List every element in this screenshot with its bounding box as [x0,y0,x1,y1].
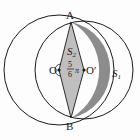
label-s1: S1 [112,67,121,81]
label-o: O [49,64,57,76]
angle-denominator: 6 [68,70,72,79]
two-circles-diagram: A B O O′ S2 S1 5 6 π [0,0,140,140]
label-o-prime: O′ [86,64,96,76]
angle-numerator: 5 [68,60,72,69]
diagram-svg: A B O O′ S2 S1 5 6 π [0,0,140,140]
point-o-dot [57,68,60,71]
label-b: B [66,120,73,132]
label-a: A [66,9,74,21]
